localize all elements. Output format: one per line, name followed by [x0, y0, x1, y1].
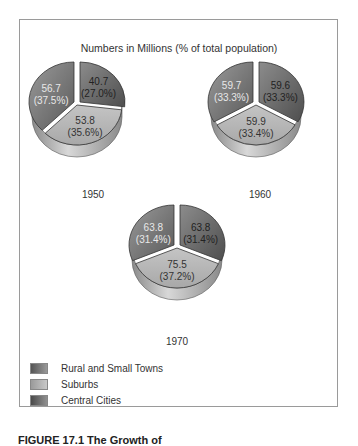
slice-value-label: 56.7	[41, 83, 61, 94]
legend-swatch-central-cities	[30, 395, 48, 406]
legend: Rural and Small Towns Suburbs Central Ci…	[30, 360, 163, 408]
slice-value-label: 40.7	[89, 76, 109, 87]
pie-1970: 63.8(31.4%)75.5(37.2%)63.8(31.4%)1970	[129, 205, 225, 347]
slice-value-label: 53.8	[75, 115, 95, 126]
figure-caption: FIGURE 17.1 The Growth of	[18, 434, 162, 446]
slice-percent-label: (33.3%)	[214, 92, 249, 103]
slice-percent-label: (35.6%)	[68, 127, 103, 138]
legend-swatch-suburbs	[30, 379, 48, 390]
legend-label: Suburbs	[61, 379, 98, 390]
pie-1950: 40.7(27.0%)53.8(35.6%)56.7(37.5%)1950	[29, 62, 125, 200]
legend-swatch-rural	[30, 363, 48, 374]
slice-percent-label: (37.5%)	[34, 95, 69, 106]
slice-percent-label: (31.4%)	[183, 234, 218, 245]
pie-1960: 59.6(33.3%)59.9(33.4%)59.7(33.3%)1960	[208, 62, 304, 200]
pie-year-label: 1970	[166, 336, 189, 347]
pie-year-label: 1960	[249, 189, 272, 200]
pie-year-label: 1950	[82, 189, 105, 200]
slice-value-label: 63.8	[144, 222, 164, 233]
legend-item-rural: Rural and Small Towns	[30, 360, 163, 376]
legend-item-suburbs: Suburbs	[30, 376, 163, 392]
slice-percent-label: (37.2%)	[159, 271, 194, 282]
slice-value-label: 59.7	[222, 80, 242, 91]
slice-percent-label: (31.4%)	[136, 234, 171, 245]
slice-percent-label: (27.0%)	[81, 88, 116, 99]
legend-label: Central Cities	[61, 395, 121, 406]
legend-item-central-cities: Central Cities	[30, 392, 163, 408]
slice-percent-label: (33.4%)	[239, 128, 274, 139]
legend-label: Rural and Small Towns	[61, 363, 163, 374]
slice-value-label: 75.5	[167, 259, 187, 270]
slice-value-label: 59.6	[271, 80, 291, 91]
slice-value-label: 59.9	[246, 116, 266, 127]
slice-percent-label: (33.3%)	[263, 92, 298, 103]
slice-value-label: 63.8	[191, 222, 211, 233]
